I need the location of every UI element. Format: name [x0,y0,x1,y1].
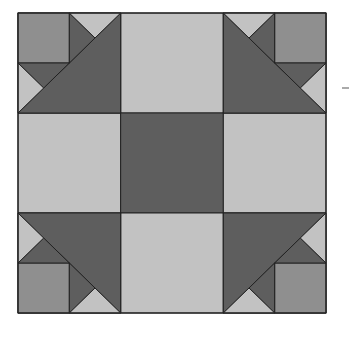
quilt-block [0,0,353,337]
edge-square [121,213,224,313]
top-right-small-square [275,13,326,63]
edge-square [18,113,121,213]
bottom-right-small-square [275,263,326,313]
edge-square [121,13,224,113]
center-square [121,113,224,213]
edge-mark [342,87,349,89]
bottom-left-small-square [18,263,69,313]
edge-square [223,113,326,213]
top-left-small-square [18,13,69,63]
